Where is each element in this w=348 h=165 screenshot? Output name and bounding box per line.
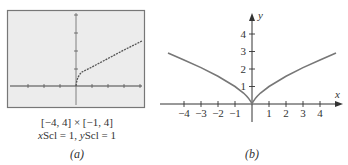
y-axis-label: y bbox=[258, 9, 263, 21]
caption-b: (b) bbox=[230, 147, 274, 162]
svg-text:1: 1 bbox=[266, 107, 272, 119]
xscl-text: Scl = 1, bbox=[43, 129, 80, 141]
svg-text:3: 3 bbox=[300, 107, 306, 119]
svg-text:2: 2 bbox=[283, 107, 289, 119]
svg-text:1: 1 bbox=[241, 80, 247, 92]
svg-text:2: 2 bbox=[241, 63, 247, 75]
caption-a: (a) bbox=[10, 147, 144, 162]
svg-text:−4: −4 bbox=[178, 107, 190, 119]
y-axis-arrow-icon bbox=[249, 13, 255, 21]
yscl-text: Scl = 1 bbox=[85, 129, 116, 141]
svg-text:4: 4 bbox=[317, 107, 323, 119]
panel-a: [−4, 4] × [−1, 4] xScl = 1, yScl = 1 (a) bbox=[0, 0, 150, 165]
panel-b: −4 −3 −2 −1 1 2 3 4 1 2 3 4 x y (b) bbox=[140, 0, 348, 165]
svg-text:3: 3 bbox=[241, 45, 247, 57]
svg-text:4: 4 bbox=[241, 28, 247, 40]
calculator-screen bbox=[0, 0, 150, 115]
svg-text:−3: −3 bbox=[195, 107, 207, 119]
x-axis-label: x bbox=[335, 88, 340, 100]
graph-b: −4 −3 −2 −1 1 2 3 4 1 2 3 4 bbox=[140, 0, 348, 140]
svg-text:−1: −1 bbox=[229, 107, 241, 119]
window-range-label: [−4, 4] × [−1, 4] bbox=[10, 116, 144, 128]
x-axis-arrow-icon bbox=[335, 101, 343, 107]
window-range-text: [−4, 4] × [−1, 4] bbox=[41, 116, 113, 128]
svg-text:−2: −2 bbox=[212, 107, 224, 119]
scale-label: xScl = 1, yScl = 1 bbox=[10, 129, 144, 141]
